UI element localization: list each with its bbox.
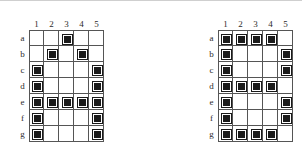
filled-square-icon [48, 50, 57, 59]
row-header-c: c [205, 62, 218, 78]
grid-cell-a5[interactable] [278, 30, 293, 46]
grid-cell-g1[interactable] [29, 126, 44, 142]
grid-cell-e2[interactable] [44, 94, 59, 110]
grid-cell-g2[interactable] [233, 126, 248, 142]
grid-cell-f5[interactable] [89, 110, 104, 126]
grid-cell-a3[interactable] [248, 30, 263, 46]
grid-cell-f4[interactable] [74, 110, 89, 126]
row-header-a: a [16, 30, 29, 46]
grid-cell-b4[interactable] [74, 46, 89, 62]
row-header-d: d [16, 78, 29, 94]
grid-cell-g2[interactable] [44, 126, 59, 142]
grid-cell-c1[interactable] [29, 62, 44, 78]
grid-cell-a2[interactable] [233, 30, 248, 46]
grid-cell-g4[interactable] [74, 126, 89, 142]
filled-square-icon [78, 50, 87, 59]
dual-grid-figure: 12345abcdefg12345abcdefg [0, 0, 302, 143]
grid-cell-b1[interactable] [29, 46, 44, 62]
row-header-b: b [16, 46, 29, 62]
filled-square-icon [222, 66, 231, 75]
grid-cell-e5[interactable] [278, 94, 293, 110]
grid-cell-a1[interactable] [29, 30, 44, 46]
grid-cell-d1[interactable] [218, 78, 233, 94]
grid-cell-e1[interactable] [218, 94, 233, 110]
grid-cell-f1[interactable] [29, 110, 44, 126]
grid-cell-a4[interactable] [74, 30, 89, 46]
left-letter-grid: 12345abcdefg [16, 19, 104, 142]
grid-cell-d1[interactable] [29, 78, 44, 94]
grid-cell-g5[interactable] [278, 126, 293, 142]
grid-cell-b3[interactable] [59, 46, 74, 62]
row-header-f: f [16, 110, 29, 126]
grid-cell-g3[interactable] [248, 126, 263, 142]
grid-cell-d2[interactable] [233, 78, 248, 94]
grid-cell-f3[interactable] [59, 110, 74, 126]
grid-cell-e3[interactable] [59, 94, 74, 110]
filled-square-icon [282, 50, 291, 59]
grid-cell-g1[interactable] [218, 126, 233, 142]
filled-square-icon [267, 35, 276, 44]
grid-cell-c1[interactable] [218, 62, 233, 78]
filled-square-icon [33, 114, 42, 123]
grid-cell-f2[interactable] [233, 110, 248, 126]
grid-cell-d4[interactable] [74, 78, 89, 94]
filled-square-icon [33, 98, 42, 107]
grid-cell-b5[interactable] [278, 46, 293, 62]
column-header-2: 2 [233, 19, 248, 30]
filled-square-icon [252, 82, 261, 91]
grid-cell-b4[interactable] [263, 46, 278, 62]
grid-cell-c5[interactable] [89, 62, 104, 78]
grid-cell-c4[interactable] [74, 62, 89, 78]
column-header-3: 3 [59, 19, 74, 30]
grid-cell-f4[interactable] [263, 110, 278, 126]
grid-cell-b2[interactable] [233, 46, 248, 62]
filled-square-icon [237, 35, 246, 44]
grid-cell-d3[interactable] [248, 78, 263, 94]
column-header-1: 1 [29, 19, 44, 30]
filled-square-icon [93, 114, 102, 123]
filled-square-icon [252, 130, 261, 139]
grid-cell-c3[interactable] [248, 62, 263, 78]
grid-cell-e1[interactable] [29, 94, 44, 110]
grid-cell-b5[interactable] [89, 46, 104, 62]
grid-cell-c4[interactable] [263, 62, 278, 78]
grid-cell-f5[interactable] [278, 110, 293, 126]
filled-square-icon [282, 114, 291, 123]
grid-cell-f2[interactable] [44, 110, 59, 126]
grid-cell-a3[interactable] [59, 30, 74, 46]
grid-cell-d3[interactable] [59, 78, 74, 94]
grid-cell-b2[interactable] [44, 46, 59, 62]
grid-cell-f3[interactable] [248, 110, 263, 126]
grid-cell-c5[interactable] [278, 62, 293, 78]
grid-cell-e3[interactable] [248, 94, 263, 110]
grid-cell-b1[interactable] [218, 46, 233, 62]
grid-cell-g4[interactable] [263, 126, 278, 142]
grid-cell-c2[interactable] [233, 62, 248, 78]
grid-cell-a5[interactable] [89, 30, 104, 46]
grid-cell-f1[interactable] [218, 110, 233, 126]
grid-cell-a1[interactable] [218, 30, 233, 46]
grid-cell-d2[interactable] [44, 78, 59, 94]
grid-cell-a4[interactable] [263, 30, 278, 46]
filled-square-icon [222, 130, 231, 139]
grid-cell-e2[interactable] [233, 94, 248, 110]
filled-square-icon [222, 50, 231, 59]
filled-square-icon [222, 82, 231, 91]
grid-cell-c3[interactable] [59, 62, 74, 78]
grid-cell-g5[interactable] [89, 126, 104, 142]
grid-cell-a2[interactable] [44, 30, 59, 46]
grid-cell-c2[interactable] [44, 62, 59, 78]
column-header-5: 5 [89, 19, 104, 30]
grid-cell-e5[interactable] [89, 94, 104, 110]
filled-square-icon [93, 130, 102, 139]
filled-square-icon [93, 66, 102, 75]
grid-cell-e4[interactable] [263, 94, 278, 110]
grid-cell-d5[interactable] [89, 78, 104, 94]
grid-cell-e4[interactable] [74, 94, 89, 110]
grid-cell-b3[interactable] [248, 46, 263, 62]
filled-square-icon [63, 35, 72, 44]
grid-cell-d4[interactable] [263, 78, 278, 94]
filled-square-icon [33, 82, 42, 91]
grid-cell-g3[interactable] [59, 126, 74, 142]
grid-cell-d5[interactable] [278, 78, 293, 94]
